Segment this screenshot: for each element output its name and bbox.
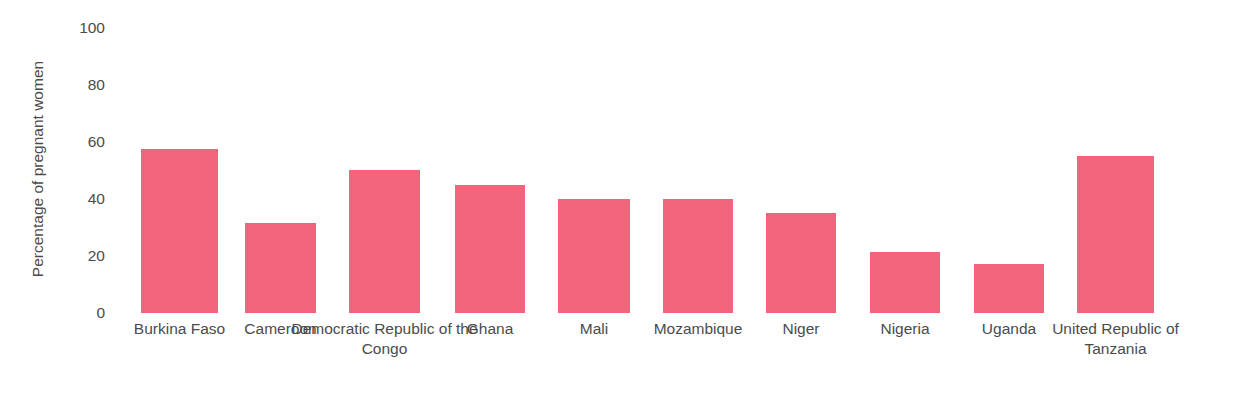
bar bbox=[245, 223, 316, 313]
bar bbox=[141, 149, 218, 313]
bar bbox=[663, 199, 733, 313]
bar bbox=[870, 252, 940, 313]
bar bbox=[558, 199, 630, 313]
bar-group: United Republic of Tanzania bbox=[1077, 0, 1154, 396]
bar bbox=[766, 213, 836, 313]
bar bbox=[1077, 156, 1154, 313]
bar-series: Burkina FasoCameroonDemocratic Republic … bbox=[0, 0, 1238, 396]
bar bbox=[974, 264, 1044, 313]
bar bbox=[349, 170, 420, 313]
plot-area: Percentage of pregnant women 02040608010… bbox=[0, 0, 1238, 396]
x-tick-label: United Republic of Tanzania bbox=[1021, 319, 1211, 358]
bar bbox=[455, 185, 525, 313]
